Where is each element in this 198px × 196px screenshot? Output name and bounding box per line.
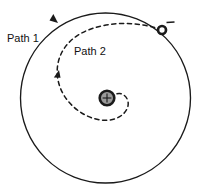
physics-figure-canvas: Path 1 Path 2: [0, 0, 198, 196]
path2-label: Path 2: [74, 45, 106, 57]
minus-icon: [167, 22, 175, 23]
path2-direction-arrow: [54, 69, 62, 79]
negative-particle: [158, 22, 175, 34]
path1-label: Path 1: [7, 32, 39, 44]
positive-point-charge: [100, 91, 115, 106]
figure-svg: Path 1 Path 2: [0, 0, 198, 196]
path1-direction-arrow: [48, 14, 60, 26]
negative-particle-body: [158, 26, 166, 34]
